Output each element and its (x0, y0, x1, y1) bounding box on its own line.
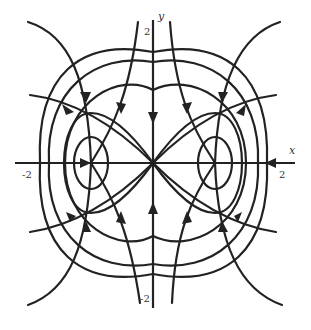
arrow-icon (182, 211, 192, 224)
y-tick-neg2: -2 (140, 293, 150, 304)
y-tick-2: 2 (144, 26, 150, 37)
x-axis-label: x (289, 144, 296, 157)
arrow-icon (148, 202, 158, 214)
arrow-icon (66, 212, 76, 222)
arrow-icon (148, 112, 158, 124)
x-tick-neg2: -2 (22, 169, 32, 180)
x-tick-2: 2 (279, 169, 285, 180)
phase-portrait: x y -2 2 2 -2 (0, 0, 311, 330)
trajectory-bottom-inner-left (91, 163, 140, 303)
arrow-icon (80, 158, 91, 168)
saddle-point (151, 161, 155, 165)
arrow-icon (182, 102, 192, 114)
y-axis-label: y (157, 10, 165, 23)
